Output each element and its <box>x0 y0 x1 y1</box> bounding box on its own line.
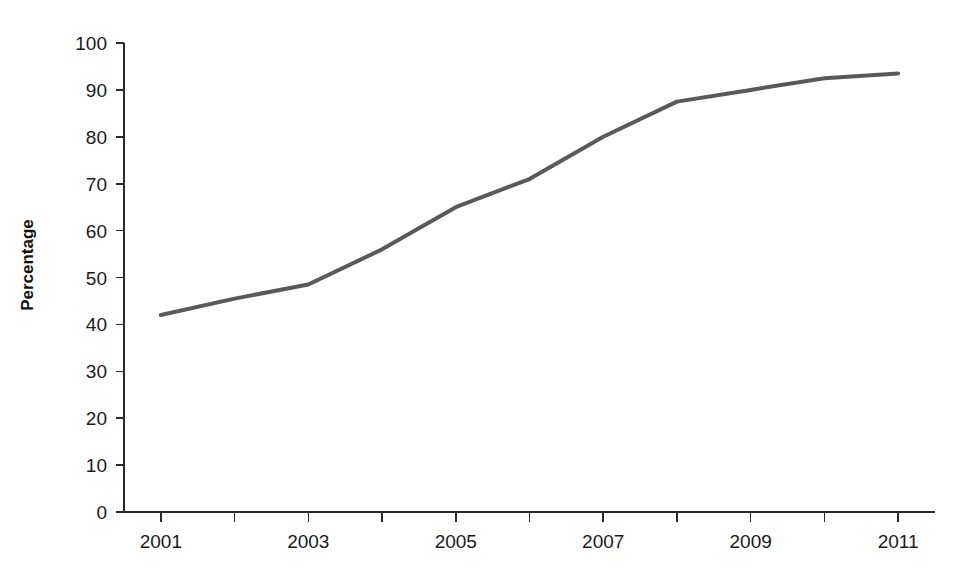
x-tick-label: 2011 <box>878 531 919 552</box>
y-axis-tick-labels: 0102030405060708090100 <box>75 33 107 523</box>
y-tick-label: 70 <box>86 174 107 195</box>
x-axis-tick-marks <box>161 512 898 522</box>
line-chart: 0102030405060708090100 20012003200520072… <box>0 0 968 581</box>
y-tick-label: 100 <box>75 33 107 54</box>
x-tick-label: 2001 <box>140 531 182 552</box>
chart-canvas: 0102030405060708090100 20012003200520072… <box>0 0 968 581</box>
y-tick-label: 40 <box>86 314 107 335</box>
y-tick-label: 10 <box>86 455 107 476</box>
y-tick-label: 30 <box>86 361 107 382</box>
x-tick-label: 2005 <box>435 531 477 552</box>
y-tick-label: 90 <box>86 80 107 101</box>
y-tick-label: 60 <box>86 221 107 242</box>
y-tick-label: 50 <box>86 268 107 289</box>
x-tick-label: 2009 <box>730 531 772 552</box>
x-axis-tick-labels: 200120032005200720092011 <box>140 531 919 552</box>
x-tick-label: 2003 <box>287 531 329 552</box>
x-tick-label: 2007 <box>582 531 624 552</box>
y-axis-title: Percentage <box>18 219 37 311</box>
y-tick-label: 80 <box>86 127 107 148</box>
data-series-line <box>161 73 898 315</box>
y-tick-label: 20 <box>86 408 107 429</box>
y-tick-label: 0 <box>96 502 107 523</box>
y-axis-tick-marks <box>116 43 124 512</box>
